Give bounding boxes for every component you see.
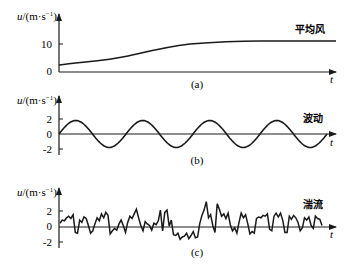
y-axis-label-c: u/(m·s−1) bbox=[17, 186, 57, 199]
tick-label-c-2: 2 bbox=[47, 205, 53, 217]
tick-label-b-0: 0 bbox=[47, 128, 53, 140]
panel-c-turbulence: u/(m·s−1) 2 0 -2 湍流 t (c) bbox=[17, 186, 336, 259]
y-axis-label-a: u/(m·s−1) bbox=[17, 10, 57, 23]
turbulence-curve bbox=[60, 202, 322, 240]
tick-label-a-10: 10 bbox=[41, 38, 53, 50]
x-axis-label-a: t bbox=[330, 73, 334, 85]
caption-c: (c) bbox=[191, 246, 204, 259]
caption-b: (b) bbox=[191, 154, 204, 167]
tick-label-b-2: 2 bbox=[47, 113, 53, 125]
x-axis-label-c: t bbox=[330, 228, 334, 240]
wind-component-figure: u/(m·s−1) 10 0 平均风 t (a) u/(m·s−1) 2 0 -… bbox=[0, 0, 353, 276]
y-axis-label-b: u/(m·s−1) bbox=[17, 94, 57, 107]
tick-label-a-0: 0 bbox=[47, 65, 53, 77]
panel-b-fluctuation: u/(m·s−1) 2 0 -2 波动 t (b) bbox=[17, 94, 336, 167]
x-axis-label-b: t bbox=[330, 136, 334, 148]
series-label-turbulence: 湍流 bbox=[303, 198, 323, 210]
series-label-mean-wind: 平均风 bbox=[295, 23, 325, 35]
caption-a: (a) bbox=[191, 78, 204, 91]
tick-label-c-0: 0 bbox=[47, 220, 53, 232]
tick-label-b-m2: -2 bbox=[43, 143, 52, 155]
mean-wind-curve bbox=[59, 41, 336, 65]
tick-label-c-m2: -2 bbox=[43, 236, 52, 248]
panel-a-mean-wind: u/(m·s−1) 10 0 平均风 t (a) bbox=[17, 10, 336, 91]
series-label-fluctuation: 波动 bbox=[303, 112, 323, 124]
